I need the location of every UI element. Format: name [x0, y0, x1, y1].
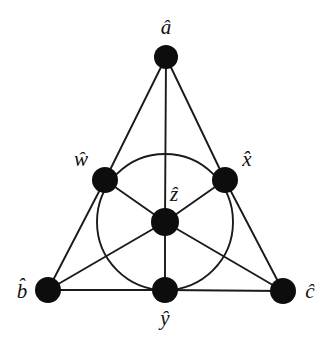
line-b-z-x [48, 180, 225, 290]
node-label-y: ŷ [160, 308, 169, 329]
node-label-x: x̂ [242, 149, 251, 170]
fano-plane-canvas [0, 0, 333, 349]
line-c-z-w [105, 180, 283, 291]
node-w [92, 167, 118, 193]
node-label-c: ĉ [305, 281, 314, 302]
node-label-w: ŵ [74, 149, 88, 170]
fano-plane-figure: âŵx̂ẑb̂ŷĉ [0, 0, 333, 349]
node-label-b: b̂ [17, 281, 28, 302]
node-a [154, 45, 178, 69]
node-label-a: â [161, 17, 172, 38]
node-z [151, 208, 179, 236]
node-c [270, 278, 296, 304]
line-a-z-y [165, 57, 166, 290]
node-x [212, 167, 238, 193]
node-y [152, 277, 178, 303]
lines-group [48, 57, 283, 291]
node-b [35, 277, 61, 303]
node-label-z: ẑ [170, 184, 178, 205]
